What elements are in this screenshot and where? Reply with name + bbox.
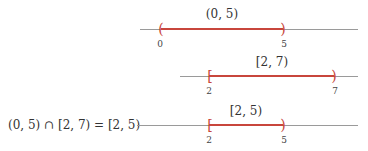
- interval-label: [2, 7): [256, 55, 288, 69]
- interval-segment: [209, 124, 283, 126]
- tick-label-left: 2: [206, 135, 212, 145]
- tick-label-left: 2: [206, 86, 212, 96]
- closed-left-bracket: [: [207, 69, 212, 83]
- tick-label-right: 5: [281, 39, 287, 49]
- interval-segment: [161, 28, 283, 30]
- tick-label-left: 0: [157, 39, 163, 49]
- open-right-bracket: ): [280, 22, 285, 36]
- open-right-bracket: ): [280, 118, 285, 132]
- closed-left-bracket: [: [207, 118, 212, 132]
- open-right-bracket: ): [331, 69, 336, 83]
- intersection-equation: (0, 5) ∩ [2, 7) = [2, 5): [8, 118, 140, 132]
- interval-segment: [209, 75, 334, 77]
- interval-label: [2, 5): [230, 104, 262, 118]
- tick-label-right: 7: [332, 86, 338, 96]
- open-left-bracket: (: [158, 22, 163, 36]
- tick-label-right: 5: [281, 135, 287, 145]
- interval-label: (0, 5): [206, 7, 238, 21]
